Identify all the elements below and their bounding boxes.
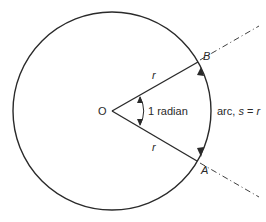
angle-arrow-up-icon [137, 96, 143, 103]
extension-line-a [200, 163, 259, 197]
arc-r: r [256, 105, 261, 117]
radian-diagram: O B A r r 1 radian arc, s = r [0, 0, 266, 222]
arc-prefix: arc, [217, 105, 238, 117]
label-point-a: A [200, 164, 208, 176]
label-arc: arc, s = r [217, 105, 261, 117]
label-point-b: B [203, 50, 210, 62]
label-radius-upper: r [152, 69, 157, 81]
radius-oa [112, 111, 197, 161]
label-angle: 1 radian [148, 105, 188, 117]
angle-arrow-down-icon [137, 119, 143, 126]
label-origin: O [98, 105, 107, 117]
arc-arrow-a-icon [197, 147, 204, 157]
arc-eq: = [244, 105, 257, 117]
label-radius-lower: r [152, 141, 157, 153]
